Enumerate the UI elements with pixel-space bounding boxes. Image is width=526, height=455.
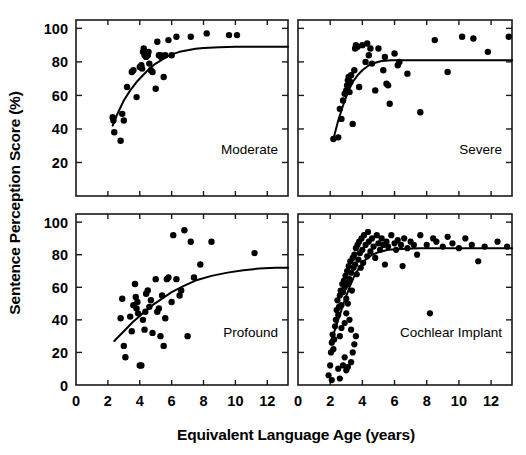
- data-point: [337, 106, 343, 112]
- data-point: [111, 129, 117, 135]
- data-point: [350, 121, 356, 127]
- data-point: [432, 37, 438, 43]
- data-point: [331, 336, 337, 342]
- data-point: [340, 362, 346, 368]
- data-point: [494, 239, 500, 245]
- data-point: [482, 243, 488, 249]
- data-point: [372, 255, 378, 261]
- data-point: [382, 54, 388, 60]
- data-point: [404, 70, 410, 76]
- data-point: [404, 245, 410, 251]
- panel-frame-profound: [76, 214, 288, 385]
- data-point: [153, 276, 159, 282]
- data-point: [146, 60, 152, 66]
- data-point: [146, 304, 152, 310]
- data-point: [145, 287, 151, 293]
- data-point: [153, 86, 159, 92]
- y-tick-label-profound-1: 20: [52, 345, 68, 361]
- data-point: [335, 312, 341, 318]
- data-point: [351, 341, 357, 347]
- y-tick-label-moderate-1: 40: [52, 121, 68, 137]
- y-tick-label-profound-0: 0: [60, 378, 68, 394]
- data-point: [226, 32, 232, 38]
- data-point: [345, 300, 351, 306]
- data-point: [411, 242, 417, 248]
- data-point: [469, 242, 475, 248]
- y-tick-label-moderate-2: 60: [52, 88, 68, 104]
- data-point: [342, 320, 348, 326]
- data-points-profound: [117, 227, 257, 369]
- data-point: [353, 333, 359, 339]
- data-point: [401, 235, 407, 241]
- data-point: [162, 315, 168, 321]
- fit-curve-severe: [333, 60, 512, 139]
- data-point: [117, 315, 123, 321]
- panel-moderate: 20406080100Moderate: [44, 20, 288, 196]
- data-point: [156, 305, 162, 311]
- data-point: [170, 232, 176, 238]
- data-point: [197, 261, 203, 267]
- panel-cochlear-implant: 024681012Cochlear Implant: [294, 214, 512, 409]
- data-point: [148, 297, 154, 303]
- data-point: [251, 250, 257, 256]
- data-point: [338, 302, 344, 308]
- data-point: [365, 229, 371, 235]
- data-point: [188, 238, 194, 244]
- data-point: [134, 299, 140, 305]
- data-point: [362, 59, 368, 65]
- panel-frame-severe: [298, 20, 512, 196]
- data-point: [343, 310, 349, 316]
- data-point: [160, 343, 166, 349]
- data-point: [504, 243, 510, 249]
- panel-profound: 020406080100024681012Profound: [44, 214, 288, 409]
- data-point: [154, 39, 160, 45]
- data-point: [382, 261, 388, 267]
- data-points-severe: [330, 34, 512, 143]
- data-point: [393, 247, 399, 253]
- data-point: [470, 35, 476, 41]
- x-tick-label-profound-5: 10: [227, 393, 243, 409]
- data-point: [110, 117, 116, 123]
- panel-label-severe: Severe: [459, 142, 502, 157]
- data-point: [385, 243, 391, 249]
- y-tick-label-moderate-4: 100: [44, 21, 68, 37]
- data-point: [417, 109, 423, 115]
- data-point: [351, 252, 357, 258]
- data-point: [204, 30, 210, 36]
- data-point: [234, 32, 240, 38]
- x-tick-label-profound-4: 8: [199, 393, 207, 409]
- data-point: [346, 276, 352, 282]
- data-point: [366, 52, 372, 58]
- data-point: [173, 34, 179, 40]
- y-tick-label-moderate-3: 80: [52, 54, 68, 70]
- data-point: [356, 84, 362, 90]
- data-point: [132, 281, 138, 287]
- x-tick-label-profound-2: 4: [136, 393, 144, 409]
- data-point: [145, 49, 151, 55]
- fit-curve-moderate: [113, 47, 288, 126]
- data-point: [372, 87, 378, 93]
- data-point: [445, 234, 451, 240]
- data-point: [327, 362, 333, 368]
- data-point: [117, 137, 123, 143]
- y-tick-label-profound-2: 40: [52, 312, 68, 328]
- data-point: [414, 252, 420, 258]
- data-point: [367, 45, 373, 51]
- x-tick-label-cochlear-implant-3: 6: [391, 393, 399, 409]
- data-point: [337, 333, 343, 339]
- data-point: [165, 37, 171, 43]
- data-points-cochlear-implant: [325, 229, 510, 383]
- data-point: [173, 276, 179, 282]
- data-point: [391, 50, 397, 56]
- data-point: [506, 34, 512, 40]
- data-point: [475, 258, 481, 264]
- data-point: [396, 59, 402, 65]
- data-point: [360, 260, 366, 266]
- panel-label-cochlear-implant: Cochlear Implant: [400, 325, 502, 340]
- data-point: [388, 232, 394, 238]
- data-point: [188, 34, 194, 40]
- panel-severe: Severe: [298, 20, 512, 196]
- data-point: [433, 239, 439, 245]
- data-point: [398, 242, 404, 248]
- y-axis-label: Sentence Perception Score (%): [6, 91, 23, 314]
